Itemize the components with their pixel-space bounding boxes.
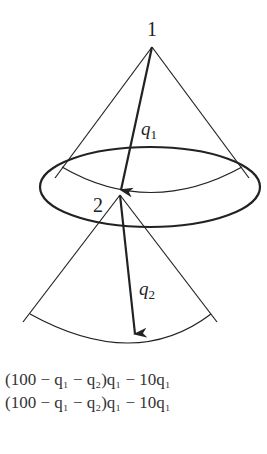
information-set-ellipse <box>40 147 260 227</box>
upper-cone-arc <box>62 167 242 193</box>
edge-q2-arrow <box>120 195 135 334</box>
upper-cone-right-edge <box>152 47 249 178</box>
edge-q2-label: q2 <box>139 278 155 302</box>
lower-cone-arc <box>30 314 211 343</box>
node-2-label: 2 <box>93 194 103 216</box>
payoff-player-1: (100 − q₁ − q₂)q₁ − 10q₁ <box>5 368 171 391</box>
game-tree-diagram: 1 q1 2 q2 <box>0 0 267 360</box>
lower-cone-right-edge <box>120 195 217 322</box>
node-1-label: 1 <box>147 18 157 40</box>
payoff-player-2: (100 − q₁ − q₂)q₁ − 10q₁ <box>5 391 171 414</box>
payoff-list: (100 − q₁ − q₂)q₁ − 10q₁ (100 − q₁ − q₂)… <box>5 368 171 414</box>
edge-q1-label: q1 <box>141 118 157 142</box>
